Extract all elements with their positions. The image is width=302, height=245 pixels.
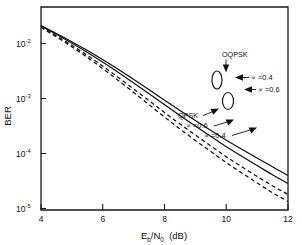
x-tick-label-8: 8	[162, 214, 167, 224]
x-tick-label-6: 6	[100, 214, 105, 224]
annotation-alpha-04-top: ∝ =0.4	[235, 73, 273, 82]
annotation-alpha-06-top: ∝ =0.6	[244, 85, 280, 94]
ber-vs-ebn0-chart: 10-2 10-3 10-4 10-5 4 6 8 10 12 Eb/N0 (d…	[0, 0, 302, 245]
annotation-qpsk-arrow-icon	[211, 109, 220, 115]
annotation-alpha-04-bottom-leader	[232, 130, 250, 136]
annotation-oqpsk-arrow-icon	[223, 65, 229, 73]
curve-oqpsk-alpha-0-4	[41, 26, 288, 176]
x-axis-ticks	[41, 204, 288, 210]
curve-qpsk-alpha-0-4	[41, 28, 288, 202]
annotation-alpha-04-bottom-label: ∝ =0.4	[204, 131, 226, 140]
y-axis-ticks	[41, 44, 46, 209]
curve-qpsk-alpha-0-6	[41, 27, 288, 195]
annotation-alpha-04-top-label: ∝ =0.4	[251, 73, 273, 82]
x-tick-label-12: 12	[283, 214, 293, 224]
x-tick-label-10: 10	[222, 214, 232, 224]
y-axis-title: BER	[2, 106, 13, 126]
annotation-alpha-04-bottom: ∝ =0.4	[204, 128, 257, 141]
y-tick-label-1e-5: 10-5	[16, 203, 31, 214]
qpsk-group-marker	[223, 93, 234, 110]
y-tick-label-1e-3: 10-3	[16, 93, 31, 104]
annotation-alpha-06-bottom-label: ∝ =0.6	[186, 121, 208, 130]
annotation-qpsk-label: QPSK	[178, 111, 198, 120]
x-axis-title: Eb/N0 (dB)	[141, 230, 187, 243]
annotation-alpha-06-top-arrow-icon	[244, 86, 252, 92]
x-tick-labels: 4 6 8 10 12	[39, 214, 293, 224]
annotation-alpha-06-bottom-leader	[214, 122, 227, 126]
y-tick-label-1e-2: 10-2	[16, 38, 31, 49]
annotation-alpha-04-top-arrow-icon	[235, 74, 243, 80]
oqpsk-group-marker	[212, 71, 222, 89]
annotation-alpha-06-bottom: ∝ =0.6	[186, 120, 234, 131]
y-tick-label-1e-4: 10-4	[16, 148, 31, 159]
chart-figure: 10-2 10-3 10-4 10-5 4 6 8 10 12 Eb/N0 (d…	[0, 0, 302, 245]
annotation-alpha-06-top-label: ∝ =0.6	[258, 85, 280, 94]
annotation-oqpsk: OQPSK	[222, 50, 248, 73]
annotation-qpsk-leader	[203, 112, 212, 116]
y-tick-labels: 10-2 10-3 10-4 10-5	[16, 38, 31, 214]
annotation-qpsk: QPSK	[178, 109, 219, 121]
annotation-oqpsk-label: OQPSK	[222, 50, 248, 59]
x-tick-label-4: 4	[39, 214, 44, 224]
